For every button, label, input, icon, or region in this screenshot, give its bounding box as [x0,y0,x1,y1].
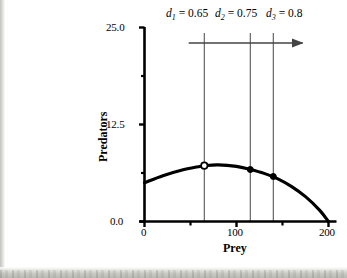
annotation-label-d1: d1 = 0.65 [166,7,208,22]
d2-equals: = [228,7,235,19]
y-axis-tick-label-0: 0.0 [110,215,123,227]
figure-root: d1 = 0.65 d2 = 0.75 d3 = 0.8 25.0 12.5 0… [0,0,347,278]
x-axis-title: Prey [223,241,247,256]
y-axis-tick-label-25: 25.0 [106,21,124,33]
x-axis-tick-label-200: 200 [319,226,335,238]
d1-equals: = [179,7,186,19]
d3-value: 0.8 [288,7,302,19]
d2-subscript: 2 [221,13,225,22]
annotation-label-d3: d3 = 0.8 [266,7,302,22]
marker-open-circle-d1 [201,162,207,168]
d1-subscript: 1 [172,13,176,22]
x-axis-tick-label-0: 0 [141,226,146,238]
d2-value: 0.75 [237,7,257,19]
marker-filled-circle-d3 [270,173,276,179]
y-axis-title: Predators [96,112,111,162]
annotation-label-d2: d2 = 0.75 [215,7,257,22]
d3-subscript: 3 [272,13,276,22]
x-axis-tick-label-100: 100 [227,226,243,238]
d1-value: 0.65 [188,7,208,19]
chart-plot-area [0,0,347,278]
series-curve-prey-isocline [145,165,329,222]
marker-filled-circle-d2 [247,167,253,173]
d3-equals: = [279,7,286,19]
